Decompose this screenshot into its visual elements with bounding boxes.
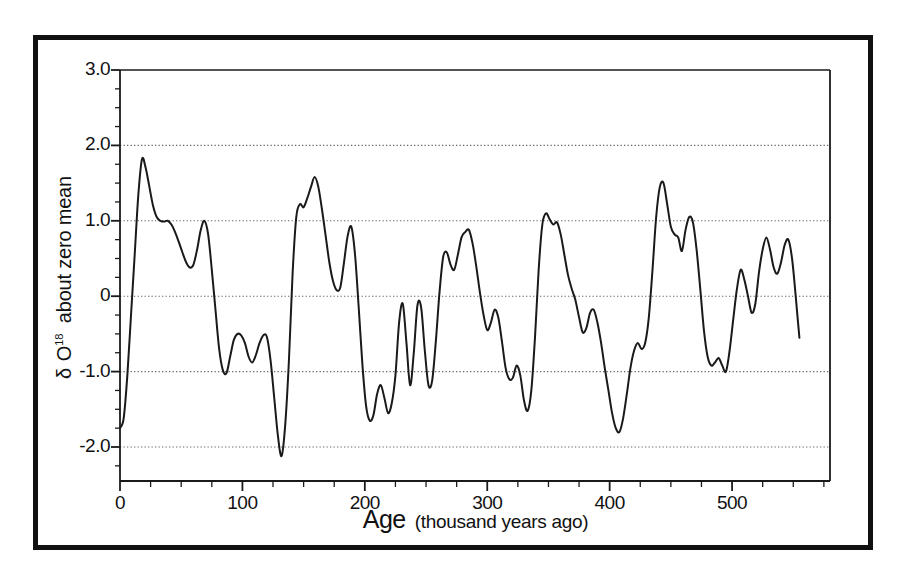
x-tick-label: 100: [212, 492, 272, 514]
y-tick-label: -1.0: [54, 360, 110, 382]
x-tick-label: 400: [580, 492, 640, 514]
x-tick-label: 200: [335, 492, 395, 514]
figure-frame: [33, 35, 873, 550]
y-axis-title-superscript: 18: [53, 334, 65, 346]
y-tick-label: 1.0: [54, 209, 110, 231]
x-tick-label: 300: [457, 492, 517, 514]
y-tick-label: 2.0: [54, 133, 110, 155]
x-tick-label: 0: [90, 492, 150, 514]
y-axis-title: δ O18 about zero mean: [53, 128, 76, 428]
x-tick-label: 500: [702, 492, 762, 514]
x-axis-title-units: (thousand years ago): [415, 511, 589, 532]
y-tick-label: -2.0: [54, 435, 110, 457]
y-tick-label: 3.0: [54, 58, 110, 80]
y-tick-label: 0: [54, 284, 110, 306]
